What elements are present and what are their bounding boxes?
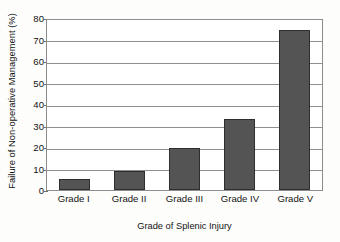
y-axis-tick-mark	[44, 191, 48, 192]
bar-slot	[157, 20, 212, 190]
bar-slot	[102, 20, 157, 190]
x-axis-tick-labels: Grade IGrade IIGrade IIIGrade IVGrade V	[46, 193, 323, 204]
bar-slot	[267, 20, 322, 190]
y-axis-tick-label: 70	[10, 36, 44, 46]
bar-chart-figure: Failure of Non-operative Management (%) …	[0, 0, 340, 242]
bar-slot	[47, 20, 102, 190]
y-axis-tick-label: 20	[10, 143, 44, 153]
x-axis-title: Grade of Splenic Injury	[46, 221, 323, 231]
x-axis-tick-label: Grade V	[268, 193, 323, 204]
y-axis-tick-label: 0	[10, 186, 44, 196]
y-axis-tick-label: 80	[10, 14, 44, 24]
y-axis-tick-label: 50	[10, 79, 44, 89]
y-axis-tick-label: 30	[10, 122, 44, 132]
x-axis-tick-label: Grade I	[46, 193, 101, 204]
y-axis-tick-label: 10	[10, 165, 44, 175]
x-axis-tick-label: Grade III	[157, 193, 212, 204]
bar-series	[47, 20, 322, 190]
x-axis-tick-label: Grade II	[101, 193, 156, 204]
bar[interactable]	[224, 119, 255, 190]
y-axis-tick-labels: 01020304050607080	[6, 19, 44, 191]
bar-slot	[212, 20, 267, 190]
bar[interactable]	[59, 179, 90, 190]
plot-area	[46, 19, 323, 191]
bar[interactable]	[114, 171, 145, 190]
x-axis-tick-label: Grade IV	[212, 193, 267, 204]
y-axis-tick-label: 40	[10, 100, 44, 110]
bar[interactable]	[169, 148, 200, 190]
bar[interactable]	[279, 30, 310, 190]
y-axis-tick-label: 60	[10, 57, 44, 67]
